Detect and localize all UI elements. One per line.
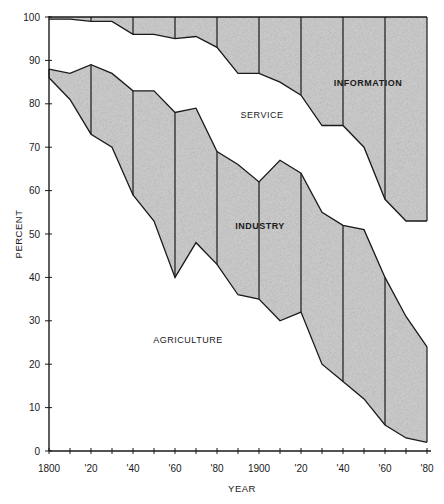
- labor-sector-chart: 01020304050607080901001800'20'40'60'8019…: [0, 0, 444, 504]
- x-tick-label: '80: [210, 463, 223, 474]
- y-tick-label: 40: [29, 272, 41, 283]
- x-tick-label: '60: [168, 463, 181, 474]
- y-tick-label: 70: [29, 142, 41, 153]
- y-tick-label: 50: [29, 229, 41, 240]
- y-tick-label: 10: [29, 402, 41, 413]
- x-tick-label: '20: [294, 463, 307, 474]
- x-tick-label: 1900: [248, 463, 271, 474]
- y-tick-label: 100: [23, 12, 40, 23]
- y-tick-label: 60: [29, 185, 41, 196]
- region-label-information: INFORMATION: [334, 78, 402, 88]
- region-label-service: SERVICE: [241, 110, 284, 120]
- y-tick-label: 80: [29, 98, 41, 109]
- region-label-agriculture: AGRICULTURE: [153, 335, 222, 345]
- x-tick-label: '20: [84, 463, 97, 474]
- x-tick-label: '80: [420, 463, 433, 474]
- x-axis-title: YEAR: [228, 483, 256, 494]
- y-axis-title: PERCENT: [13, 210, 24, 259]
- x-tick-label: '40: [126, 463, 139, 474]
- region-label-industry: INDUSTRY: [235, 221, 285, 231]
- x-tick-label: '40: [336, 463, 349, 474]
- y-tick-label: 20: [29, 359, 41, 370]
- x-tick-label: '60: [378, 463, 391, 474]
- y-tick-label: 90: [29, 55, 41, 66]
- y-tick-label: 30: [29, 315, 41, 326]
- y-tick-label: 0: [34, 446, 40, 457]
- x-tick-label: 1800: [38, 463, 61, 474]
